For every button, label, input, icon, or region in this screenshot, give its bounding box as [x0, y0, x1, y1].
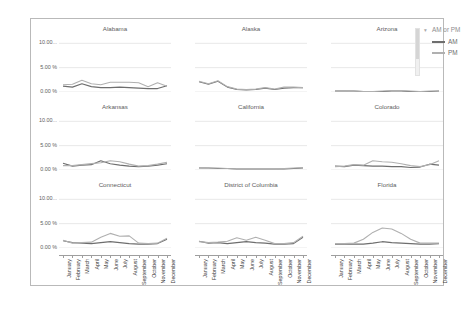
x-tick-label: February [347, 259, 353, 280]
y-tick-label: 10.00... [39, 39, 57, 45]
panel-plot-area [195, 35, 307, 92]
x-tick-label: August [268, 259, 274, 276]
x-tick-label: February [211, 259, 217, 280]
y-tick-label: 10.00... [39, 195, 57, 201]
legend-item-am[interactable]: AM [424, 38, 472, 45]
x-tick-mark [420, 255, 421, 258]
y-tick-label: 0.00 % [40, 166, 57, 172]
x-tick-label: September [413, 259, 419, 285]
x-tick-mark [218, 255, 219, 258]
panel-plot-area [59, 35, 171, 92]
legend-title-label: AM or PM [432, 26, 460, 33]
x-tick-mark [63, 255, 64, 258]
legend-swatch-am [432, 41, 445, 43]
x-tick-mark [373, 255, 374, 258]
x-tick-mark [275, 255, 276, 258]
x-tick-label: April [94, 259, 100, 270]
x-tick-mark [382, 255, 383, 258]
x-axis-col-1: JanuaryFebruaryMarchAprilMayJuneJulyAugu… [195, 255, 307, 301]
x-axis-line [195, 255, 307, 256]
panel-title: District of Columbia [195, 181, 307, 188]
x-tick-mark [72, 255, 73, 258]
panel-title: California [195, 103, 307, 110]
x-tick-mark [139, 255, 140, 258]
x-tick-label: November [160, 259, 166, 283]
x-tick-label: July [394, 259, 400, 268]
panel-florida: Florida [331, 181, 443, 249]
panel-title: Arkansas [59, 103, 171, 110]
x-tick-label: January [66, 259, 72, 278]
x-tick-mark [199, 255, 200, 258]
x-tick-label: December [170, 259, 176, 283]
x-tick-label: March [84, 259, 90, 274]
x-axis-line [59, 255, 171, 256]
panel-connecticut: Connecticut [59, 181, 171, 249]
x-tick-label: February [75, 259, 81, 280]
x-tick-mark [246, 255, 247, 258]
x-tick-label: June [113, 259, 119, 271]
x-tick-mark [256, 255, 257, 258]
legend: ▾ AM or PM AM PM [424, 26, 472, 60]
panel-plot-area [195, 191, 307, 248]
panel-colorado: Colorado [331, 103, 443, 171]
y-tick-label: 0.00 % [40, 88, 57, 94]
panel-plot-area [195, 113, 307, 170]
x-tick-label: October [151, 259, 157, 278]
x-tick-mark [411, 255, 412, 258]
x-tick-label: September [277, 259, 283, 285]
x-axis-col-2: JanuaryFebruaryMarchAprilMayJuneJulyAugu… [331, 255, 443, 301]
x-tick-label: August [404, 259, 410, 276]
x-tick-label: July [258, 259, 264, 268]
x-tick-mark [294, 255, 295, 258]
y-axis-row-1: 10.00...5.00 %0.00 % [31, 113, 59, 169]
panel-plot-area [59, 113, 171, 170]
x-tick-mark [439, 255, 440, 258]
x-tick-label: November [432, 259, 438, 283]
y-tick-label: 5.00 % [40, 142, 57, 148]
y-axis-row-2: 10.00...5.00 %0.00 % [31, 191, 59, 247]
panel-plot-area [331, 113, 443, 170]
panel-arkansas: Arkansas [59, 103, 171, 171]
x-tick-label: June [385, 259, 391, 271]
x-tick-mark [237, 255, 238, 258]
x-tick-mark [354, 255, 355, 258]
x-tick-mark [148, 255, 149, 258]
x-tick-mark [101, 255, 102, 258]
x-tick-label: June [249, 259, 255, 271]
panel-grid: 10.00...5.00 %0.00 %10.00...5.00 %0.00 %… [31, 19, 443, 285]
chevron-down-icon[interactable]: ▾ [424, 27, 427, 33]
x-tick-mark [129, 255, 130, 258]
x-tick-mark [208, 255, 209, 258]
x-tick-label: March [356, 259, 362, 274]
x-tick-label: May [239, 259, 245, 269]
x-tick-mark [82, 255, 83, 258]
panel-title: Alaska [195, 25, 307, 32]
panel-plot-area [331, 191, 443, 248]
panel-title: Alabama [59, 25, 171, 32]
x-tick-label: April [366, 259, 372, 270]
panel-alaska: Alaska [195, 25, 307, 93]
legend-label-pm: PM [448, 49, 458, 56]
legend-title-row: ▾ AM or PM [424, 26, 472, 33]
panel-california: California [195, 103, 307, 171]
x-tick-label: October [287, 259, 293, 278]
x-tick-label: November [296, 259, 302, 283]
x-tick-label: September [141, 259, 147, 285]
panel-title: Florida [331, 181, 443, 188]
legend-scrollbar-thumb[interactable] [416, 29, 419, 59]
y-tick-label: 5.00 % [40, 220, 57, 226]
legend-scrollbar[interactable] [415, 28, 420, 76]
legend-item-pm[interactable]: PM [424, 49, 472, 56]
x-axis-line [331, 255, 443, 256]
x-tick-mark [110, 255, 111, 258]
x-tick-label: May [103, 259, 109, 269]
x-tick-label: October [423, 259, 429, 278]
x-tick-label: December [306, 259, 312, 283]
x-tick-label: January [202, 259, 208, 278]
y-tick-label: 5.00 % [40, 64, 57, 70]
x-tick-mark [335, 255, 336, 258]
x-tick-mark [91, 255, 92, 258]
panel-plot-area [59, 191, 171, 248]
x-tick-mark [401, 255, 402, 258]
x-tick-mark [303, 255, 304, 258]
